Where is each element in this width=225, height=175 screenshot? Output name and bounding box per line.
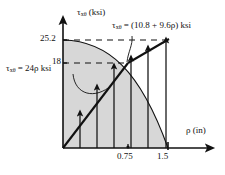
shaded-parabolic-region [63, 40, 168, 148]
equation-resultant: τxθ = (10.8 + 9.6ρ) ksi [112, 21, 191, 30]
y-tick-label-18: 18 [52, 57, 61, 66]
y-axis-label: τxθ (ksi) [77, 8, 105, 17]
equation-linear: τxθ = 24ρ ksi [6, 64, 51, 73]
x-tick-label-0-75: 0.75 [117, 152, 133, 161]
x-point-0-75 [126, 145, 129, 148]
y-tick-label-25-2: 25.2 [40, 34, 56, 43]
stress-distribution-figure: τxθ (ksi) τxθ = (10.8 + 9.6ρ) ksi τxθ = … [0, 0, 225, 175]
x-tick-label-1-5: 1.5 [157, 152, 168, 161]
x-axis-label: ρ (in) [186, 126, 206, 135]
